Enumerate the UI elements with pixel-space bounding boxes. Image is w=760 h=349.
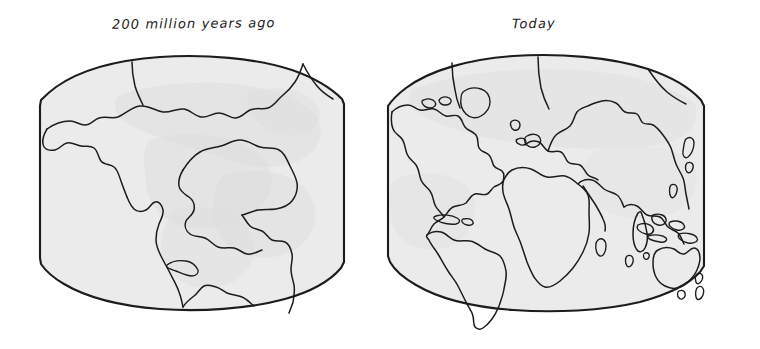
left-panel-title: 200 million years ago: [112, 15, 276, 32]
right-globe-today: [388, 55, 704, 329]
continental-drift-figure: 200 million years ago Today: [0, 0, 760, 349]
island-tasmania: [678, 290, 686, 299]
island-new-zealand-north: [695, 273, 702, 283]
island-new-zealand-south: [696, 286, 704, 299]
globes-drawing: [0, 0, 760, 349]
right-panel-title: Today: [512, 16, 556, 31]
left-globe-pangaea: [40, 56, 344, 313]
